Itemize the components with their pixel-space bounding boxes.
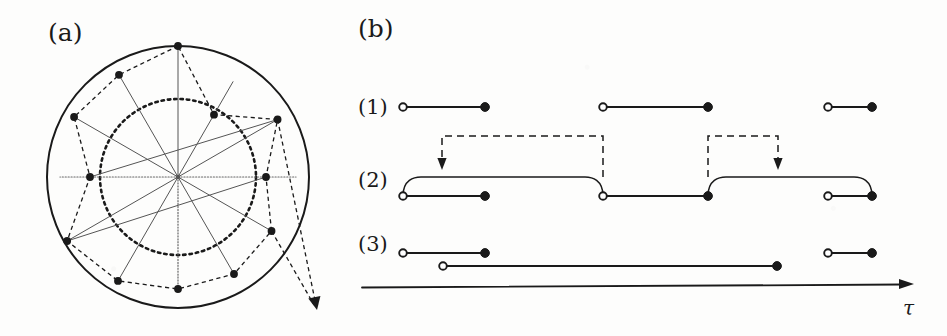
row-label-2: (2) [358,168,388,192]
row-2-bridge-1 [708,177,872,196]
row-1-interval-2-start-marker [824,103,832,111]
trajectory-exit-arrowhead [308,296,323,311]
tau-axis-label: τ [903,296,914,320]
radial-spoke-10 [74,117,178,177]
radial-spoke-11 [119,75,178,177]
row-2 [399,136,876,200]
trajectory-point-5 [115,278,121,284]
row-3-interval-2-end-marker [773,262,782,271]
row-2-dashed-link-1 [708,136,778,177]
row-3-interval-2-start-marker [439,262,447,270]
trajectory-point-3 [87,174,93,180]
row-1-interval-2-end-marker [868,103,877,112]
row-2-dashed-link-0 [442,136,603,177]
trajectory-point-10 [274,116,280,122]
trajectory-point-8 [268,228,274,234]
row-3-interval-0-start-marker [399,249,407,257]
radial-spoke-4 [178,177,272,231]
trajectory-point-6 [175,286,181,292]
radial-spoke-2 [178,120,278,178]
trajectory-point-1 [116,72,122,78]
radial-spoke-7 [118,177,178,281]
row-2-arrowhead-0 [437,158,446,170]
row-label-3: (3) [358,232,388,256]
trajectory-point-9 [263,174,269,180]
row-2-interval-2-start-marker [824,192,832,200]
row-3-interval-1-end-marker [868,249,877,258]
row-2-interval-2-end-marker [868,192,877,201]
row-2-arrowhead-1 [773,158,782,170]
panel-a [47,43,323,311]
center-point [176,175,180,179]
row-label-1: (1) [358,95,388,119]
exit-trajectory-segment-1 [278,120,316,305]
row-1-interval-1-end-marker [704,103,713,112]
row-2-interval-1-start-marker [599,192,607,200]
row-1-interval-1-start-marker [599,103,607,111]
radial-spoke-1 [178,82,233,177]
row-3 [399,249,876,271]
row-1-interval-0-start-marker [399,103,407,111]
trajectory-point-7 [231,271,237,277]
figure-canvas [0,0,947,336]
row-2-interval-0-start-marker [399,192,407,200]
panel-b [362,103,914,289]
row-3-interval-0-end-marker [481,249,490,258]
row-2-interval-1-end-marker [704,192,713,201]
row-2-interval-0-end-marker [481,192,490,201]
row-3-interval-1-start-marker [824,249,832,257]
chord-line-1 [67,177,266,241]
tau-axis-line [362,285,902,288]
panel-b-caption: (b) [358,14,394,43]
row-1 [399,103,876,112]
tau-axis-arrowhead [899,279,914,289]
panel-a-caption: (a) [48,18,82,47]
radial-spoke-5 [178,177,234,274]
row-2-bridge-0 [403,177,603,196]
row-1-interval-0-end-marker [481,103,490,112]
trajectory-point-2 [71,114,77,120]
trajectory-point-11 [211,112,217,118]
